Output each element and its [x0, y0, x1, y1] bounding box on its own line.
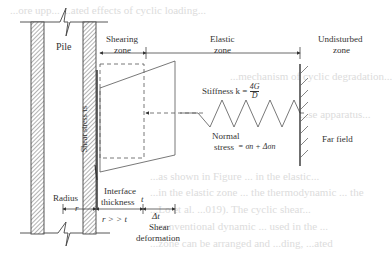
- undisturbed-zone-label-1: Undisturbed: [318, 34, 363, 44]
- stiffness-text: Stiffness k =: [202, 86, 250, 96]
- stiffness-denominator: D: [250, 92, 260, 100]
- shearing-zone-label-1: Shearing: [106, 34, 138, 44]
- elastic-zone-label-2: zone: [214, 45, 231, 55]
- delta-t-label: Δt: [152, 211, 160, 221]
- shear-deformation-trapezoid: [100, 61, 175, 172]
- normal-stress-label-2: stress: [214, 142, 234, 152]
- shearing-zone-dashed-box: [100, 64, 144, 158]
- interface-t-label: t: [141, 194, 144, 204]
- pile-label: Pile: [56, 42, 72, 52]
- normal-stress-expression: = σn + Δσn: [238, 142, 275, 152]
- radius-label: Radius: [53, 193, 78, 203]
- spring: [180, 100, 304, 127]
- shear-stress-label: Shear stress τs: [80, 106, 90, 152]
- shearing-zone-label-2: zone: [114, 45, 131, 55]
- interface-thickness-label-1: Interface: [104, 186, 136, 196]
- far-field-hatching: [300, 66, 308, 158]
- undisturbed-zone-label-2: zone: [333, 45, 350, 55]
- elastic-zone-label-1: Elastic: [210, 34, 235, 44]
- stiffness-label: Stiffness k = 4G D: [202, 83, 259, 100]
- far-field-label: Far field: [322, 134, 353, 144]
- normal-stress-label-1: Normal: [212, 131, 240, 141]
- interface-thickness-label-2: thickness: [101, 197, 135, 207]
- r-much-greater-t-label: r > > t: [102, 214, 127, 224]
- shear-deformation-label-1: Shear: [149, 222, 170, 232]
- pile-wall-left: [31, 22, 44, 234]
- radius-r-label: r: [75, 203, 79, 213]
- shear-deformation-label-2: deformation: [136, 233, 180, 243]
